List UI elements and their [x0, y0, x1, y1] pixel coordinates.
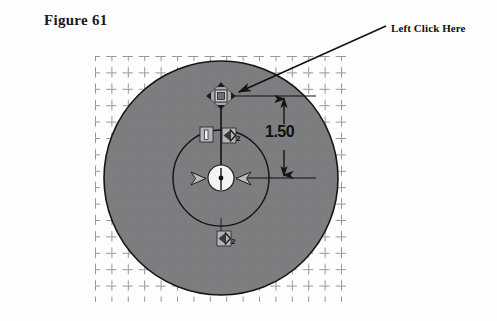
relation-concentric-upper-icon[interactable] [222, 128, 236, 143]
relation-concentric-upper-subscript: 2 [236, 134, 240, 143]
relation-concentric-lower-subscript: 2 [231, 237, 235, 246]
relation-vertical-icon[interactable] [200, 127, 213, 142]
relation-concentric-lower-icon[interactable] [217, 231, 231, 246]
dimension-value[interactable]: 1.50 [265, 123, 294, 141]
figure-page: Figure 61 Left Click Here [0, 0, 497, 321]
cad-sketch-canvas [0, 0, 497, 321]
